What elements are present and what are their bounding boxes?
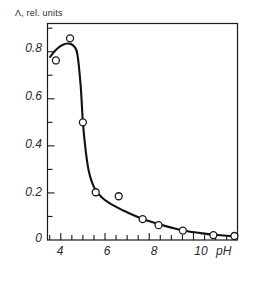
data-point-marker	[92, 189, 99, 196]
data-point-marker	[210, 232, 217, 239]
data-curve	[50, 43, 236, 236]
data-point-marker	[179, 227, 186, 234]
data-point-marker	[139, 216, 146, 223]
data-point-marker	[115, 193, 122, 200]
data-point-marker	[67, 35, 74, 42]
axis-frame	[48, 24, 238, 241]
data-point-marker	[155, 222, 162, 229]
data-point-marker	[52, 57, 59, 64]
data-point-marker	[231, 233, 238, 240]
data-point-markers	[52, 35, 237, 240]
plot-area	[0, 0, 254, 281]
data-point-marker	[79, 119, 86, 126]
figure-chart-ph-response: Λ, rel. units 0.8 0.6 0.4 0.2 0 4 6 8 10…	[0, 0, 254, 281]
